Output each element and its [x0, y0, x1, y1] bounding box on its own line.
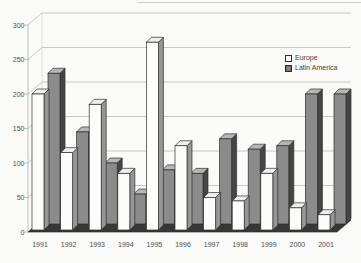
- bar-europe-1996-side: [187, 141, 192, 230]
- x-label-2000: 2000: [290, 241, 306, 248]
- bar-europe-1998-front: [232, 201, 244, 230]
- bar-europe-1992-front: [61, 153, 73, 230]
- y-tick-label-150: 150: [13, 125, 25, 132]
- x-label-2001: 2001: [318, 241, 334, 248]
- bar-latin-america-1992-front: [77, 132, 89, 224]
- x-label-1997: 1997: [204, 241, 220, 248]
- bar-latin-america-2001-side: [346, 89, 351, 224]
- bar-europe-1996-front: [175, 146, 187, 230]
- bar-latin-america-1998-front: [248, 149, 260, 224]
- bar-latin-america-2001-front: [334, 94, 346, 224]
- legend-item-latin-america: Latin America: [285, 64, 337, 72]
- x-label-1992: 1992: [61, 241, 77, 248]
- bar-latin-america-1997-front: [220, 139, 232, 224]
- bar-europe-1994-front: [118, 173, 130, 230]
- legend-item-europe: Europe: [285, 54, 337, 62]
- y-tick-label-100: 100: [13, 160, 25, 167]
- bar-latin-america-2000-front: [305, 94, 317, 224]
- x-label-1998: 1998: [232, 241, 248, 248]
- x-label-1999: 1999: [261, 241, 277, 248]
- bar-europe-1993-side: [101, 99, 106, 230]
- bar-europe-1998-side: [244, 196, 249, 230]
- gridline-300: [28, 13, 351, 25]
- bar-europe-1997-front: [204, 198, 216, 231]
- legend-label-europe: Europe: [295, 54, 318, 62]
- legend: Europe Latin America: [285, 54, 337, 72]
- legend-swatch-latin-america-icon: [285, 65, 292, 72]
- bar-latin-america-2000-side: [317, 89, 322, 224]
- bar-latin-america-1993-front: [105, 163, 117, 224]
- bar-europe-1999-front: [261, 173, 273, 230]
- bar-europe-1995-side: [158, 37, 163, 230]
- gridline-150: [28, 117, 351, 129]
- bar-europe-1992-side: [73, 148, 78, 230]
- bar-europe-2001-front: [318, 215, 330, 230]
- x-label-1994: 1994: [118, 241, 134, 248]
- legend-swatch-europe-icon: [285, 55, 292, 62]
- scan-artifact-line: [138, 2, 361, 3]
- x-label-1996: 1996: [175, 241, 191, 248]
- bar-europe-1993-front: [89, 104, 101, 230]
- bar-europe-2000-front: [289, 208, 301, 230]
- x-label-1995: 1995: [147, 241, 163, 248]
- bar-europe-1994-side: [130, 168, 135, 230]
- bar-europe-1991-front: [32, 94, 44, 230]
- x-label-1991: 1991: [32, 241, 48, 248]
- legend-label-latin-america: Latin America: [295, 64, 337, 72]
- bar-europe-1995-front: [146, 42, 158, 230]
- bar-latin-america-1994-front: [134, 194, 146, 224]
- bar-europe-1999-side: [273, 168, 278, 230]
- chart-canvas: 0501001502002503001991199219931994199519…: [0, 0, 361, 263]
- bar-europe-1991-side: [44, 89, 49, 230]
- y-tick-label-300: 300: [13, 22, 25, 29]
- y-tick-label-250: 250: [13, 56, 25, 63]
- bar-europe-1997-side: [216, 193, 221, 231]
- y-tick-label-0: 0: [21, 229, 25, 236]
- bar-latin-america-1996-front: [191, 173, 203, 224]
- bar-chart-3d: 0501001502002503001991199219931994199519…: [0, 0, 361, 263]
- x-label-1993: 1993: [89, 241, 105, 248]
- bar-latin-america-1999-front: [277, 146, 289, 224]
- gridline-200: [28, 82, 351, 94]
- bar-latin-america-1991-front: [48, 73, 60, 224]
- bar-latin-america-1995-front: [162, 170, 174, 224]
- y-tick-label-200: 200: [13, 91, 25, 98]
- y-tick-label-50: 50: [17, 194, 25, 201]
